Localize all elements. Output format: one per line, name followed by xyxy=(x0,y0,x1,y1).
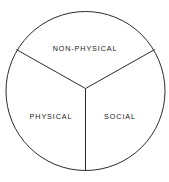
pie-diagram: NON-PHYSICAL PHYSICAL SOCIAL xyxy=(0,0,169,182)
pie-chart-svg: NON-PHYSICAL PHYSICAL SOCIAL xyxy=(0,0,169,182)
segment-label-non-physical: NON-PHYSICAL xyxy=(53,44,118,53)
segment-label-social: SOCIAL xyxy=(104,112,136,121)
segment-label-physical: PHYSICAL xyxy=(30,112,73,121)
